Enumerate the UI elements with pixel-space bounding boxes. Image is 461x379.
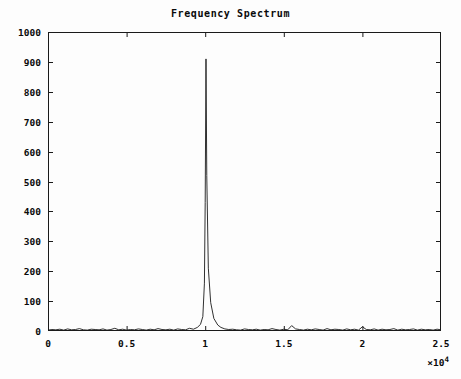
x-tick-label: 0 [45,338,51,349]
y-tick-label: 1000 [0,27,41,38]
x-axis-exponent-power: 4 [444,355,449,364]
plot-area [48,32,441,331]
y-tick-label: 400 [0,206,41,217]
y-tick-label: 200 [0,266,41,277]
x-tick-label: 1 [202,338,208,349]
y-tick-label: 900 [0,56,41,67]
x-tick-label: 2.5 [432,338,449,349]
frequency-spectrum-figure: Frequency Spectrum 100090080070060050040… [0,0,461,379]
x-tick-label: 2 [360,338,366,349]
y-tick-label: 300 [0,236,41,247]
y-tick-label: 600 [0,146,41,157]
y-tick-label: 700 [0,116,41,127]
chart-title: Frequency Spectrum [0,8,461,19]
y-tick-label: 500 [0,176,41,187]
plot-background [48,32,441,331]
y-tick-label: 0 [0,326,41,337]
spectrum-plot-svg [48,32,441,331]
x-tick-label: 0.5 [118,338,135,349]
y-tick-label: 800 [0,86,41,97]
y-tick-label: 100 [0,296,41,307]
x-tick-label: 1.5 [275,338,292,349]
x-axis-exponent-label: ×104 [427,355,449,368]
x-axis-exponent-prefix: ×10 [427,357,444,368]
